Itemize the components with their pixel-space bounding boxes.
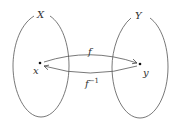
set-y-label: Y	[135, 10, 143, 21]
arrow-f-inverse-superscript: −1	[89, 77, 99, 85]
arrow-f-inverse	[44, 66, 137, 73]
diagram-svg: X Y x y f f−1	[0, 0, 177, 126]
set-x-ellipse	[13, 16, 69, 117]
arrow-f-label: f	[87, 46, 94, 57]
arrow-f-inverse-label: f−1	[84, 77, 99, 89]
set-y-ellipse	[112, 18, 168, 118]
point-x-label: x	[33, 65, 39, 76]
point-y	[139, 63, 142, 66]
set-x-label: X	[36, 9, 45, 20]
point-x	[39, 62, 42, 65]
point-y-label: y	[142, 67, 149, 78]
diagram-canvas: X Y x y f f−1	[0, 0, 177, 126]
